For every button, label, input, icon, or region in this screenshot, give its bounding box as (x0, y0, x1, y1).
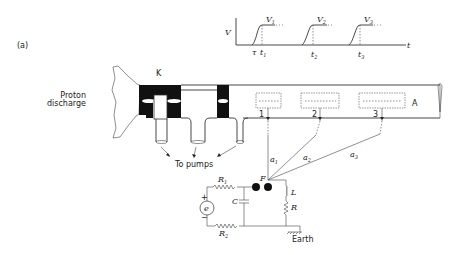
a2-label: a2 (303, 153, 311, 163)
spark-gap-right (264, 183, 272, 191)
r1-label: R1 (217, 175, 227, 185)
l-label: L (290, 188, 296, 197)
v1-label: V1 (266, 15, 275, 25)
probe-1-label: 1 (259, 110, 264, 119)
earth-label: Earth (292, 235, 313, 244)
plus-label: + (201, 193, 208, 202)
apparatus-diagram: (a) V t V1 τ t1 V2 t2 V3 t3 Proton disch… (0, 0, 461, 255)
r-label: R (290, 203, 297, 212)
resistor-r1 (213, 185, 235, 189)
r2-label: R2 (218, 229, 228, 239)
source-label-line2: discharge (47, 99, 86, 108)
t2-label: t2 (311, 50, 317, 60)
k-label: K (156, 69, 162, 78)
probe-3: 3 (359, 93, 405, 121)
f-label: F (259, 174, 266, 183)
t3-label: t3 (358, 50, 364, 60)
trigger-circuit: R1 F C L R e + − R2 Ea (200, 174, 313, 244)
probe-2-label: 2 (312, 110, 317, 119)
probe-1: 1 (256, 93, 281, 121)
c-label: C (232, 197, 238, 206)
a1-label: a1 (270, 155, 278, 165)
a-label: A (412, 99, 418, 108)
accelerator-tube: A (139, 84, 442, 144)
e-label: e (204, 204, 209, 213)
pump-arrows: To pumps (161, 146, 236, 169)
panel-label: (a) (17, 41, 28, 50)
pulse-2 (302, 25, 327, 45)
resistor-r (284, 201, 288, 215)
delay-cables: a1 a2 a3 (268, 121, 382, 180)
waveform-inset: V t V1 τ t1 V2 t2 V3 t3 (225, 15, 411, 60)
a3-label: a3 (350, 150, 358, 160)
v2-label: V2 (317, 15, 326, 25)
tau-label: τ (252, 48, 257, 57)
proton-discharge-source: Proton discharge (47, 66, 142, 138)
probe-2: 2 (301, 93, 339, 121)
probe-3-label: 3 (373, 110, 378, 119)
inductor-l (286, 186, 288, 196)
pulse-3 (349, 25, 373, 45)
minus-label: − (201, 213, 208, 222)
v3-label: V3 (364, 15, 373, 25)
spark-gap-left (252, 183, 260, 191)
t-axis-label: t (407, 41, 411, 50)
v-axis-label: V (225, 28, 232, 37)
pumps-label: To pumps (174, 160, 213, 169)
resistor-r2 (215, 224, 237, 228)
pulse-1 (252, 25, 275, 45)
t1-label: t1 (260, 48, 266, 58)
